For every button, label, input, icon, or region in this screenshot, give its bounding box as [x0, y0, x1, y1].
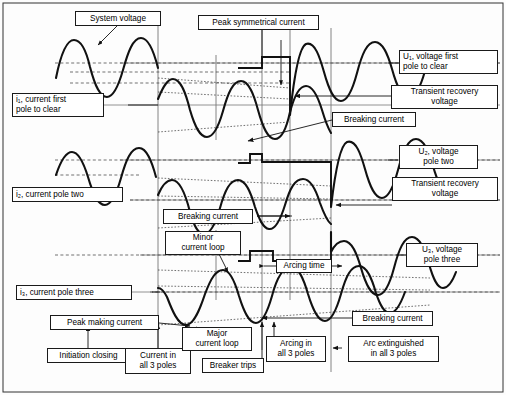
- label-u1-voltage-first-pole[interactable]: U₁, voltage first pole to clear: [399, 50, 498, 74]
- label-arcing-time[interactable]: Arcing time: [276, 259, 332, 273]
- trace-system-voltage: [56, 38, 158, 97]
- label-transient-recovery-voltage-2[interactable]: Transient recovery voltage: [392, 177, 498, 201]
- label-arcing-in-all-3-poles[interactable]: Arcing in all 3 poles: [266, 336, 326, 362]
- label-transient-recovery-voltage-1[interactable]: Transient recovery voltage: [391, 85, 498, 109]
- label-current-in-all-3-poles[interactable]: Current in all 3 poles: [125, 348, 191, 374]
- label-i1-current-first-pole[interactable]: i₁, current first pole to clear: [12, 93, 104, 117]
- label-minor-current-loop[interactable]: Minor current loop: [165, 231, 241, 255]
- label-u2-voltage-pole-two[interactable]: U₂, voltage pole two: [399, 145, 478, 169]
- label-i3-current-pole-three[interactable]: i₃, current pole three: [16, 285, 132, 300]
- label-breaking-current-3[interactable]: Breaking current: [352, 311, 433, 326]
- trv-step-third-pole: [238, 232, 331, 261]
- label-i2-current-pole-two[interactable]: i₂, current pole two: [12, 187, 123, 202]
- label-breaking-current-1[interactable]: Breaking current: [332, 112, 416, 127]
- label-peak-making-current[interactable]: Peak making current: [50, 315, 159, 330]
- label-u3-voltage-pole-three[interactable]: U₃, voltage pole three: [406, 243, 478, 267]
- diagram-canvas: System voltage Peak symmetrical current …: [0, 0, 506, 395]
- trace-i2-current-right: [158, 179, 331, 234]
- trace-i1-current: [158, 79, 331, 139]
- label-initiation-closing[interactable]: Initiation closing: [47, 348, 130, 363]
- label-breaker-trips[interactable]: Breaker trips: [202, 358, 264, 373]
- label-arc-extinguished[interactable]: Arc extinguished in all 3 poles: [348, 336, 439, 362]
- label-system-voltage[interactable]: System voltage: [75, 11, 161, 26]
- leader-system-voltage: [98, 25, 118, 45]
- label-peak-symmetrical-current[interactable]: Peak symmetrical current: [198, 15, 319, 30]
- label-major-current-loop[interactable]: Major current loop: [182, 327, 252, 351]
- label-breaking-current-2[interactable]: Breaking current: [163, 209, 253, 224]
